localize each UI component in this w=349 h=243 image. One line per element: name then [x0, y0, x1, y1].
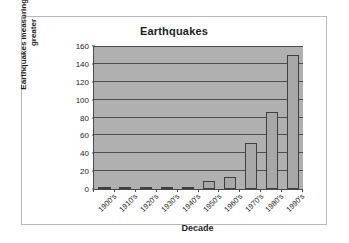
bar-slot	[282, 46, 303, 189]
x-axis-tick-mark	[302, 189, 303, 192]
bar-slot	[240, 46, 261, 189]
x-axis-title: Decade	[93, 223, 302, 233]
y-axis-tick-label: 140	[76, 59, 89, 68]
x-axis-tick-label: 1940's	[181, 192, 203, 214]
bar-slot	[157, 46, 178, 189]
y-axis-tick-label: 20	[80, 167, 89, 176]
x-axis-tick-label: 1990's	[285, 192, 307, 214]
bar-slot	[178, 46, 199, 189]
x-axis-tick-label: 1950's	[202, 192, 224, 214]
x-axis-tick-labels: 1900's1910's1920's1930's1940's1950's1960…	[93, 192, 302, 222]
y-axis-tick-label: 100	[76, 95, 89, 104]
x-axis-tick-label: 1960's	[223, 192, 245, 214]
y-axis-title-line-1: Earthquakes measuring 6.0 or	[19, 0, 28, 90]
bar-slot	[94, 46, 115, 189]
x-axis-tick-label: 1980's	[264, 192, 286, 214]
y-axis-tick-label: 0	[85, 185, 89, 194]
y-axis-tick-label: 80	[80, 113, 89, 122]
chart-title: Earthquakes	[22, 25, 326, 37]
bar-1950s	[203, 181, 215, 189]
x-axis-tick-label: 1970's	[244, 192, 266, 214]
x-axis-tick-label: 1920's	[139, 192, 161, 214]
bar-1990s	[287, 55, 299, 189]
x-axis-tick-label: 1910's	[118, 192, 140, 214]
bar-1960s	[224, 177, 236, 189]
x-axis-tick-label: 1900's	[97, 192, 119, 214]
bar-slot	[261, 46, 282, 189]
y-axis-tick-label: 60	[80, 131, 89, 140]
y-axis-title-line-2: greater	[29, 19, 38, 46]
bar-1970s	[245, 143, 257, 189]
bar-series	[94, 46, 303, 189]
chart-frame: Earthquakes Earthquakes measuring 6.0 or…	[21, 16, 327, 225]
bar-slot	[115, 46, 136, 189]
y-axis-tick-label: 160	[76, 42, 89, 51]
y-axis-tick-label: 120	[76, 77, 89, 86]
x-axis-tick-label: 1930's	[160, 192, 182, 214]
bar-slot	[219, 46, 240, 189]
y-axis-title: Earthquakes measuring 6.0 or greater	[16, 0, 42, 104]
bar-slot	[199, 46, 220, 189]
y-axis-tick-labels: 020406080100120140160	[68, 46, 92, 189]
bar-slot	[136, 46, 157, 189]
plot-area	[93, 46, 303, 190]
bar-1980s	[266, 112, 278, 189]
y-axis-tick-label: 40	[80, 149, 89, 158]
